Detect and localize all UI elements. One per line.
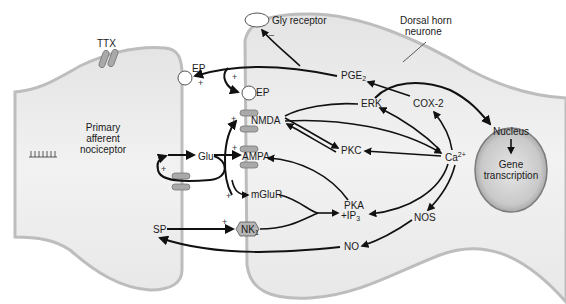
dorsal-horn-cell: Dorsal horn neurone Nucleus Gene transcr… xyxy=(245,14,566,302)
nk1-receptor: NK1 xyxy=(236,222,259,236)
no-label: NO xyxy=(344,241,359,252)
gene-label-1: Gene xyxy=(499,159,524,170)
gly-receptor-icon xyxy=(245,13,269,27)
svg-text:+: + xyxy=(222,217,227,227)
nk1-subscript: 1 xyxy=(255,229,259,236)
primary-afferent-label-3: nociceptor xyxy=(80,144,127,155)
pain-pathway-diagram: TTX Primary afferent nociceptor Dorsal h… xyxy=(0,0,566,304)
nos-label: NOS xyxy=(414,212,436,223)
pge2-subscript: 2 xyxy=(362,75,366,82)
mglur-label: mGluR xyxy=(251,189,282,200)
erk-label: ERK xyxy=(361,98,382,109)
nk1-label: NK xyxy=(241,224,255,235)
pge2-label: PGE xyxy=(341,70,362,81)
nucleus: Nucleus Gene transcription xyxy=(475,126,547,212)
svg-text:+: + xyxy=(161,164,166,174)
ep-post-receptor-icon xyxy=(242,86,256,100)
dorsal-horn-label-1: Dorsal horn xyxy=(400,15,452,26)
gly-receptor-label: Gly receptor xyxy=(272,15,327,26)
svg-text:+: + xyxy=(232,143,237,153)
gene-label-2: transcription xyxy=(484,170,538,181)
svg-text:+: + xyxy=(226,191,231,201)
primary-afferent-label-1: Primary xyxy=(86,122,120,133)
dorsal-horn-label-2: neurone xyxy=(405,26,442,37)
cox2-label: COX-2 xyxy=(413,98,444,109)
ttx-label: TTX xyxy=(97,38,116,49)
ep-pre-receptor-icon xyxy=(178,71,192,85)
svg-text:+: + xyxy=(232,72,237,82)
svg-text:+: + xyxy=(231,114,236,124)
pkc-label: PKC xyxy=(341,145,362,156)
svg-text:–: – xyxy=(269,30,274,40)
ampa-label: AMPA xyxy=(242,151,270,162)
ep-pre-label: EP xyxy=(192,63,206,74)
calcium-label: Ca xyxy=(445,152,458,163)
glu-label: Glu xyxy=(198,151,214,162)
ip3-subscript: 3 xyxy=(356,215,360,222)
nmda-label: NMDA xyxy=(251,115,281,126)
svg-text:+: + xyxy=(198,78,203,88)
calcium-superscript: 2+ xyxy=(458,151,466,158)
pka-label-2: +IP xyxy=(341,210,357,221)
primary-afferent-label-2: afferent xyxy=(86,133,120,144)
sp-label: SP xyxy=(153,224,167,235)
nucleus-label: Nucleus xyxy=(493,126,529,137)
ep-post-label: EP xyxy=(256,87,270,98)
